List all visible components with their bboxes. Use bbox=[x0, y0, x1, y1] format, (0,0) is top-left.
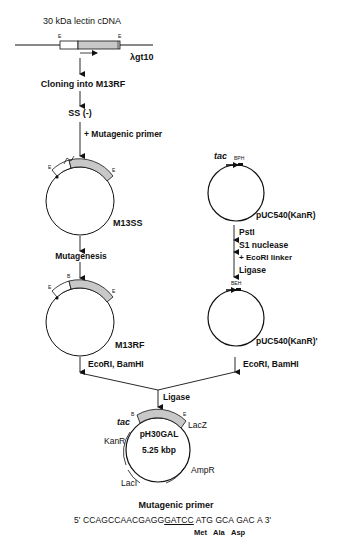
m13ss-plasmid bbox=[46, 156, 114, 235]
lacz-label: LacZ bbox=[188, 421, 207, 430]
ph30gal-name: pH30GAL bbox=[140, 430, 179, 439]
amino-met: Met bbox=[194, 529, 207, 537]
step-ecori-linker: + EcoRI linker bbox=[239, 254, 292, 262]
step-cloning: Cloning into M13RF bbox=[41, 80, 126, 89]
sites-bph-label: BPH bbox=[234, 156, 244, 161]
m13rf-label: M13RF bbox=[115, 341, 145, 350]
kanr-label: KanR bbox=[104, 437, 125, 446]
five-prime-label: 5' bbox=[74, 515, 81, 525]
step-s1-nuclease: S1 nuclease bbox=[239, 241, 288, 250]
amino-asp: Asp bbox=[231, 529, 245, 537]
cdna-title: 30 kDa lectin cDNA bbox=[43, 17, 121, 26]
codon-met: ATG bbox=[196, 515, 213, 525]
m13ss-label: M13SS bbox=[113, 219, 143, 228]
final-tac-label: tac bbox=[117, 418, 130, 427]
primer-heading: Mutagenic primer bbox=[138, 501, 213, 510]
step-psti: PstI bbox=[239, 228, 255, 237]
step-ecori-bamhi-right: EcoRI, BamHI bbox=[243, 360, 299, 369]
ecori-site-label: E bbox=[58, 34, 61, 39]
bamhi-site-seq: GATCC bbox=[164, 515, 194, 525]
m13rf-plasmid bbox=[46, 280, 114, 356]
puc540-modified-label: pUC540(KanR)' bbox=[256, 337, 318, 346]
ecori-site-label: E bbox=[48, 165, 51, 170]
three-prime-label: 3' bbox=[265, 515, 272, 525]
ecori-site-label: E bbox=[183, 412, 186, 417]
ecori-site-label: E bbox=[112, 168, 115, 173]
puc540-label: pUC540(KanR) bbox=[256, 211, 316, 220]
bamhi-site-label: B bbox=[67, 274, 70, 279]
ecori-site-label: E bbox=[112, 289, 115, 294]
ecori-site-label: E bbox=[48, 285, 51, 290]
ecori-site-label: E bbox=[118, 34, 121, 39]
sites-beh-label: BEH bbox=[231, 281, 241, 286]
lambda-gt10-label: λgt10 bbox=[130, 53, 154, 62]
codon-ala: GCA bbox=[215, 515, 233, 525]
ph30gal-size: 5.25 kbp bbox=[142, 446, 176, 455]
step-mutagenic-primer: + Mutagenic primer bbox=[84, 130, 162, 139]
step-ligase-merge: Ligase bbox=[163, 393, 190, 402]
ampr-label: AmpR bbox=[191, 466, 215, 475]
step-ligase-right: Ligase bbox=[239, 266, 266, 275]
codon-trailing: A bbox=[257, 515, 262, 525]
primer-seq-before: CCAGCCAACGAGG bbox=[83, 515, 164, 525]
step-ss: SS (-) bbox=[68, 109, 92, 118]
laci-label: LacI bbox=[121, 479, 137, 488]
step-ecori-bamhi-left: EcoRI, BamHI bbox=[88, 360, 144, 369]
bamhi-site-label: B bbox=[131, 412, 134, 417]
amino-ala: Ala bbox=[213, 529, 225, 537]
codon-asp: GAC bbox=[236, 515, 255, 525]
primer-sequence: 5' CCAGCCAACGAGGGATCC ATG GCA GAC A 3' bbox=[74, 516, 271, 525]
step-mutagenesis: Mutagenesis bbox=[55, 252, 107, 261]
tac-promoter-label: tac bbox=[214, 152, 227, 161]
